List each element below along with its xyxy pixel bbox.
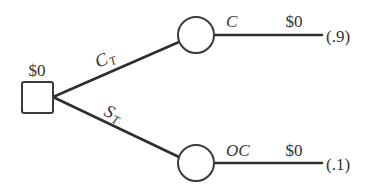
payoff-bottom: $0 [286, 141, 303, 160]
decision-node [22, 82, 53, 113]
payoff-top: $0 [286, 12, 303, 31]
chance-node-bottom [178, 145, 214, 181]
outcome-label-bottom: OC [226, 141, 250, 160]
root-value-label: $0 [29, 61, 46, 80]
decision-tree-diagram: $0 CT ST C $0 (.9) OC $0 (.1) [0, 0, 372, 192]
svg-text:ST: ST [100, 100, 126, 128]
outcome-label-top: C [226, 12, 238, 31]
probability-bottom: (.1) [326, 155, 350, 174]
branch-label-bottom: ST [100, 100, 126, 128]
probability-top: (.9) [326, 27, 350, 46]
branch-line-top [53, 42, 179, 97]
chance-node-top [178, 17, 214, 53]
